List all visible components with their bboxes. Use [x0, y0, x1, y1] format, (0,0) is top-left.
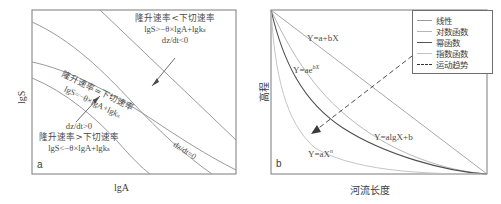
panel-b-letter: b — [276, 158, 282, 169]
curve-label-linear: Y=a+bX — [307, 34, 339, 43]
legend-label-linear: 线性 — [436, 14, 452, 26]
legend: 线性 对数函数 幂函数 指数函数 运动趋势 — [412, 10, 493, 74]
legend-item-logarithmic[interactable]: 对数函数 — [416, 25, 490, 36]
annotation-top-region: 隆升速率<下切速率 lgS>−θ×lgA+lgkₛ dz/dt<0 — [112, 14, 238, 48]
panel-a-x-axis-label: lgA — [114, 182, 129, 193]
legend-swatch-power — [416, 37, 433, 47]
curve-label-exponential-exponent: bX — [313, 64, 320, 70]
panel-a-letter: a — [37, 159, 43, 170]
panel-b-y-axis-label: 高程 — [256, 82, 271, 102]
panel-b-x-axis-label: 河流长度 — [350, 182, 390, 197]
legend-item-linear[interactable]: 线性 — [416, 14, 490, 25]
legend-label-exponential: 指数函数 — [436, 47, 468, 59]
panel-a: 隆升速率<下切速率 lgS>−θ×lgA+lgkₛ dz/dt<0 隆升速率=下… — [0, 0, 250, 204]
panel-b: Y=a+bX Y=aebX Y=algX+b Y=aXn 线性 对数函数 幂函数… — [251, 0, 501, 204]
legend-label-power: 幂函数 — [436, 36, 460, 48]
legend-item-power[interactable]: 幂函数 — [416, 36, 490, 47]
legend-swatch-logarithmic — [416, 26, 433, 36]
curve-label-exponential: Y=aebX — [293, 64, 319, 75]
annotation-top-region-line2: lgS>−θ×lgA+lgkₛ — [112, 25, 238, 34]
legend-swatch-exponential — [416, 48, 433, 58]
annotation-bottom-region-line3: lgS<−θ×lgA+lgkₛ — [18, 144, 140, 153]
legend-swatch-linear — [416, 15, 433, 25]
annotation-bottom-region: dz/dt>0 隆升速率>下切速率 lgS<−θ×lgA+lgkₛ — [18, 122, 140, 156]
annotation-bottom-region-line1: dz/dt>0 — [18, 122, 140, 131]
annotation-top-region-line3: dz/dt<0 — [112, 36, 238, 45]
legend-label-movement-trend: 运动趋势 — [436, 58, 468, 70]
legend-label-logarithmic: 对数函数 — [436, 25, 468, 37]
curve-label-logarithmic: Y=algX+b — [374, 133, 413, 142]
annotation-top-region-line1: 隆升速率<下切速率 — [112, 14, 238, 23]
annotation-bottom-region-line2: 隆升速率>下切速率 — [18, 133, 140, 142]
legend-item-exponential[interactable]: 指数函数 — [416, 48, 490, 59]
curve-label-power-base: Y=aX — [308, 149, 330, 159]
curve-label-power-exponent: n — [330, 148, 333, 154]
legend-item-movement-trend[interactable]: 运动趋势 — [416, 59, 490, 70]
figure-container: 隆升速率<下切速率 lgS>−θ×lgA+lgkₛ dz/dt<0 隆升速率=下… — [0, 0, 501, 204]
panel-a-y-axis-label: lgS — [16, 91, 27, 104]
curve-label-exponential-base: Y=ae — [293, 65, 313, 75]
legend-swatch-movement-trend — [416, 59, 433, 69]
curve-label-power: Y=aXn — [308, 148, 333, 159]
